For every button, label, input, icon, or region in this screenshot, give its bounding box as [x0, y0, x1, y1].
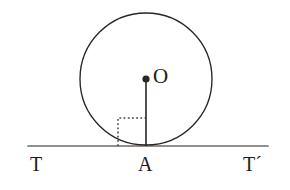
- geometry-figure: O T A T´: [0, 0, 290, 190]
- label-center-O: O: [153, 66, 168, 87]
- label-tangent-right-Tprime: T´: [243, 154, 262, 174]
- center-point-dot: [142, 75, 149, 82]
- label-tangent-left-T: T: [30, 154, 42, 174]
- label-tangent-point-A: A: [138, 154, 152, 174]
